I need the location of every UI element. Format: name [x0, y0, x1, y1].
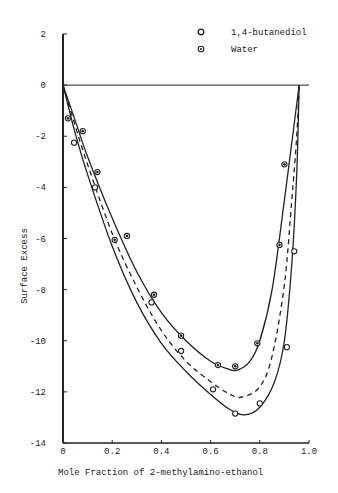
dotted-circle-center-icon [200, 48, 202, 50]
open-circle-icon [198, 29, 204, 35]
x-tick-label: 0.8 [252, 447, 268, 457]
surface-excess-chart: 20-2-4-6-8-10-12-14 00.20.40.60.81.0 1,4… [0, 0, 338, 493]
x-axis-title: Mole Fraction of 2-methylamino-ethanol [58, 468, 263, 478]
x-axis: 00.20.40.60.81.0 [60, 440, 317, 457]
butanediol-point [92, 185, 97, 190]
x-tick-label: 1.0 [301, 447, 317, 457]
butanediol-point [71, 140, 76, 145]
legend-item-butanediol: 1,4-butanediol [198, 28, 306, 38]
y-tick-label: -10 [30, 337, 46, 347]
y-tick-label: -2 [35, 132, 46, 142]
x-tick-label: 0.2 [104, 447, 120, 457]
butanediol-point [210, 387, 215, 392]
x-tick-label: 0 [60, 447, 65, 457]
solid-fit-curve [63, 85, 299, 415]
solid-fit-curve [63, 85, 299, 371]
y-tick-label: 2 [41, 30, 46, 40]
butanediol-point [284, 345, 289, 350]
butanediol-point [292, 249, 297, 254]
y-axis: 20-2-4-6-8-10-12-14 [30, 30, 67, 449]
x-tick-label: 0.4 [153, 447, 169, 457]
legend-label: Water [231, 45, 258, 55]
y-tick-label: -8 [35, 286, 46, 296]
y-tick-label: 0 [41, 81, 46, 91]
legend-label: 1,4-butanediol [231, 28, 307, 38]
y-tick-label: -6 [35, 235, 46, 245]
butanediol-point [178, 348, 183, 353]
y-tick-label: -4 [35, 183, 46, 193]
legend: 1,4-butanediol Water [198, 28, 306, 55]
legend-item-water: Water [198, 45, 258, 55]
butanediol-point [149, 300, 154, 305]
fit-curves [63, 85, 299, 415]
y-tick-label: -12 [30, 388, 46, 398]
butanediol-point [257, 401, 262, 406]
data-points [65, 116, 297, 416]
y-tick-label: -14 [30, 439, 46, 449]
butanediol-point [233, 411, 238, 416]
x-tick-label: 0.6 [202, 447, 218, 457]
y-axis-title: Surface Excess [20, 228, 30, 304]
